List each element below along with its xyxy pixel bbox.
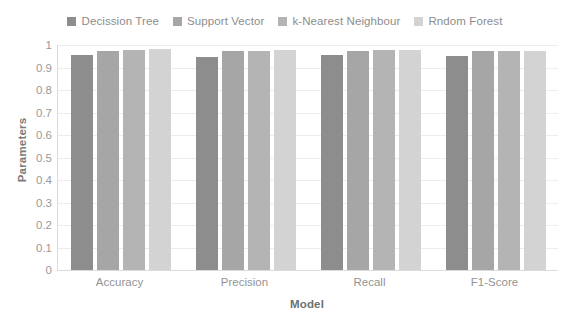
- legend-item-k-nearest-neighbour: k-Nearest Neighbour: [278, 15, 400, 27]
- bar-chart: Decission Tree Support Vector k-Nearest …: [0, 0, 570, 336]
- bar[interactable]: [123, 50, 145, 270]
- legend-swatch-icon: [278, 17, 287, 26]
- x-axis-tick-label: Accuracy: [57, 276, 182, 288]
- x-axis-title: Model: [57, 298, 557, 310]
- y-axis-tick-label: 0: [46, 264, 52, 276]
- bar[interactable]: [373, 50, 395, 270]
- x-axis-tick-label: F1-Score: [432, 276, 557, 288]
- y-axis-tick-labels: 10.90.80.70.60.50.40.30.20.10: [22, 45, 52, 270]
- bar[interactable]: [446, 56, 468, 270]
- legend-label: k-Nearest Neighbour: [292, 15, 400, 27]
- legend-item-support-vector: Support Vector: [173, 15, 264, 27]
- y-axis-tick-label: 0.8: [36, 84, 52, 96]
- bar[interactable]: [97, 51, 119, 270]
- y-axis-tick-label: 0.2: [36, 219, 52, 231]
- bar[interactable]: [222, 51, 244, 270]
- legend-swatch-icon: [414, 17, 423, 26]
- x-axis-tick-label: Precision: [182, 276, 307, 288]
- bar[interactable]: [149, 49, 171, 270]
- y-axis-tick-label: 0.3: [36, 197, 52, 209]
- bar-group: [183, 45, 308, 270]
- plot-area: [57, 45, 558, 271]
- bar-groups: [58, 45, 558, 270]
- y-axis-tick-label: 0.9: [36, 62, 52, 74]
- bar-group: [433, 45, 558, 270]
- bar[interactable]: [321, 55, 343, 270]
- bar[interactable]: [347, 51, 369, 270]
- bar[interactable]: [498, 51, 520, 270]
- x-axis-tick-labels: AccuracyPrecisionRecallF1-Score: [57, 276, 557, 288]
- bar[interactable]: [274, 50, 296, 270]
- y-axis-tick-label: 0.6: [36, 129, 52, 141]
- legend-label: Decission Tree: [81, 15, 158, 27]
- y-axis-tick-label: 0.1: [36, 242, 52, 254]
- y-axis-tick-label: 0.7: [36, 107, 52, 119]
- bar-group: [58, 45, 183, 270]
- legend-swatch-icon: [67, 17, 76, 26]
- bar[interactable]: [399, 50, 421, 270]
- legend-item-decission-tree: Decission Tree: [67, 15, 158, 27]
- bar-group: [308, 45, 433, 270]
- y-axis-tick-label: 0.4: [36, 174, 52, 186]
- legend-swatch-icon: [173, 17, 182, 26]
- legend-label: Support Vector: [187, 15, 264, 27]
- plot-wrapper: Parameters 10.90.80.70.60.50.40.30.20.10…: [0, 40, 570, 290]
- bar[interactable]: [248, 51, 270, 270]
- bar[interactable]: [524, 51, 546, 270]
- y-axis-tick-label: 1: [46, 39, 52, 51]
- x-axis-tick-label: Recall: [307, 276, 432, 288]
- chart-legend: Decission Tree Support Vector k-Nearest …: [0, 10, 570, 32]
- legend-label: Rndom Forest: [428, 15, 502, 27]
- bar[interactable]: [71, 55, 93, 270]
- bar[interactable]: [196, 57, 218, 270]
- bar[interactable]: [472, 51, 494, 270]
- y-axis-tick-label: 0.5: [36, 152, 52, 164]
- legend-item-rndom-forest: Rndom Forest: [414, 15, 502, 27]
